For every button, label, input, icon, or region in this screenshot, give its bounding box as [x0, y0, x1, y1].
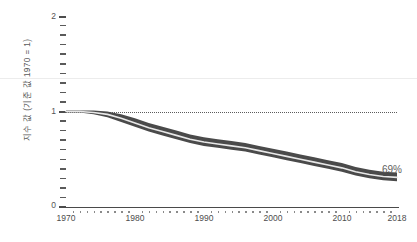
chart-container: 지수 값 (기준 값 1970 = 1) 2 1 0 1970 1980 199…: [0, 0, 417, 242]
x-tick-label-2000: 2000: [264, 213, 283, 223]
series-index: [0, 0, 417, 242]
x-tick-label-1990: 1990: [195, 213, 214, 223]
x-tick-label-1970: 1970: [57, 213, 76, 223]
end-value-annotation: 69%: [382, 164, 402, 175]
x-tick-label-1980: 1980: [126, 213, 145, 223]
x-tick-label-2010: 2010: [333, 213, 352, 223]
x-tick-label-2018: 2018: [388, 213, 407, 223]
